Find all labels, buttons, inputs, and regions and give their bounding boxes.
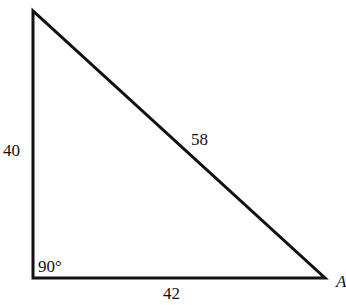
hypotenuse-label: 58	[191, 131, 208, 148]
right-triangle	[33, 11, 325, 278]
vertex-a-label: A	[336, 273, 346, 290]
horizontal-leg-label: 42	[163, 285, 180, 302]
right-angle-label: 90°	[38, 258, 62, 275]
vertical-leg-label: 40	[3, 142, 20, 159]
